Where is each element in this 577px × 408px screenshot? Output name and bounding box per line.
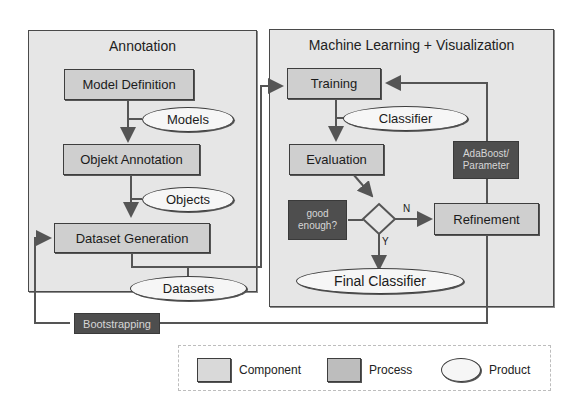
product-swatch — [441, 358, 481, 382]
adaboost-parameter-process[interactable]: AdaBoost/ Parameter — [453, 141, 519, 179]
adaboost-label-line1: AdaBoost/ — [463, 148, 510, 160]
legend-item-process: Process — [327, 358, 412, 382]
decision-no-label: N — [403, 203, 410, 214]
component-swatch — [197, 358, 231, 382]
training-component[interactable]: Training — [287, 68, 381, 99]
good-enough-process[interactable]: good enough? — [288, 200, 347, 240]
process-swatch — [327, 358, 361, 382]
models-product[interactable]: Models — [142, 107, 234, 132]
legend-process-label: Process — [369, 363, 412, 377]
legend-product-label: Product — [489, 363, 530, 377]
evaluation-component[interactable]: Evaluation — [289, 144, 384, 175]
good-enough-label-line2: enough? — [298, 220, 337, 232]
model-definition-component[interactable]: Model Definition — [64, 69, 194, 100]
legend-item-product: Product — [441, 358, 530, 382]
objekt-annotation-component[interactable]: Objekt Annotation — [63, 144, 200, 175]
good-enough-label-line1: good — [298, 208, 337, 220]
legend-component-label: Component — [239, 363, 301, 377]
decision-yes-label: Y — [382, 236, 389, 247]
datasets-product[interactable]: Datasets — [130, 276, 247, 301]
classifier-product[interactable]: Classifier — [343, 106, 468, 131]
objects-product[interactable]: Objects — [142, 187, 234, 212]
legend: Component Process Product — [178, 345, 551, 391]
refinement-component[interactable]: Refinement — [434, 203, 539, 235]
bootstrapping-process[interactable]: Bootstrapping — [74, 313, 160, 334]
adaboost-label-line2: Parameter — [463, 160, 510, 172]
dataset-generation-component[interactable]: Dataset Generation — [54, 223, 210, 253]
legend-item-component: Component — [197, 358, 301, 382]
final-classifier-product[interactable]: Final Classifier — [296, 268, 464, 294]
decision-diamond — [363, 204, 395, 234]
